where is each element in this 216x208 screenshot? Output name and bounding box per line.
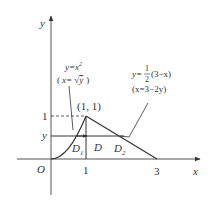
leader-left (69, 86, 73, 130)
region-d1: D1 (71, 142, 83, 157)
parabola-inverse: (x= √y) (57, 75, 89, 85)
y-axis-label: y (39, 17, 45, 29)
line-equation-prefix: y= (131, 69, 142, 79)
line-inverse: (x=3−2y) (132, 84, 166, 94)
leader-right (129, 103, 148, 137)
point-label: (1, 1) (77, 100, 101, 113)
origin-label: O (37, 163, 45, 175)
line-equation-suffix: (3−x) (151, 69, 171, 79)
x-tick-3: 3 (154, 165, 160, 177)
region-d2: D2 (113, 142, 126, 157)
parabola-equation: y=x2 (64, 61, 82, 72)
y-tick-y: y (41, 129, 47, 141)
x-axis-label: x (192, 165, 198, 177)
line-equation-den: 2 (145, 75, 149, 84)
region-d: D (93, 141, 102, 153)
line-equation-num: 1 (145, 64, 149, 73)
x-tick-1: 1 (83, 164, 89, 176)
y-tick-1: 1 (42, 110, 48, 122)
integration-region-diagram: y x O 1 3 1 y (1, 1) y=x2 (x= √y) y= 1 2… (0, 0, 216, 208)
